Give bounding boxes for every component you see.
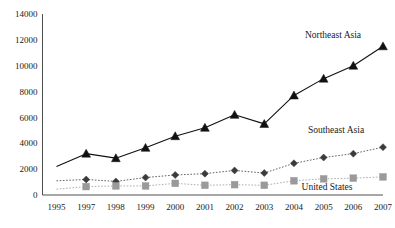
- y-tick-label: 0: [33, 190, 38, 200]
- data-point-marker-square: [83, 183, 90, 190]
- series-label-northeast-asia: Northeast Asia: [305, 30, 362, 40]
- data-point-marker-triangle: [230, 110, 239, 118]
- series-northeast-asia: [57, 42, 388, 167]
- data-point-marker-square: [261, 182, 268, 189]
- chart-container: 02000400060008000100001200014000 1995199…: [0, 0, 395, 228]
- x-tick-label: 2002: [226, 202, 244, 212]
- series-line: [57, 147, 384, 181]
- data-point-marker-triangle: [319, 74, 328, 82]
- y-tick-label: 2000: [20, 164, 39, 174]
- x-tick-label: 1997: [77, 202, 96, 212]
- data-point-marker-diamond: [142, 174, 149, 181]
- line-chart: 02000400060008000100001200014000 1995199…: [0, 0, 395, 228]
- data-point-marker-square: [172, 180, 179, 187]
- y-axis-tick-labels: 02000400060008000100001200014000: [15, 9, 38, 200]
- data-point-marker-square: [142, 183, 149, 190]
- data-point-marker-triangle: [290, 91, 299, 99]
- series-label-southeast-asia: Southeast Asia: [308, 125, 365, 135]
- data-point-marker-diamond: [320, 154, 327, 161]
- data-point-marker-triangle: [349, 61, 358, 69]
- series-southeast-asia: [57, 144, 387, 185]
- y-tick-label: 14000: [15, 9, 38, 19]
- x-tick-label: 1995: [48, 202, 67, 212]
- data-point-marker-square: [231, 181, 238, 188]
- axis-lines: [43, 14, 384, 195]
- x-tick-label: 2007: [374, 202, 393, 212]
- data-point-marker-diamond: [261, 170, 268, 177]
- x-tick-label: 2001: [196, 202, 214, 212]
- x-tick-label: 2003: [255, 202, 274, 212]
- x-tick-label: 2006: [344, 202, 363, 212]
- x-tick-label: 1998: [107, 202, 126, 212]
- data-point-marker-square: [291, 177, 298, 184]
- data-point-marker-triangle: [201, 123, 210, 131]
- series-layer: [57, 42, 388, 190]
- data-point-marker-triangle: [82, 149, 91, 157]
- series-label-united-states: United States: [302, 182, 353, 192]
- data-point-marker-diamond: [201, 170, 208, 177]
- y-tick-label: 8000: [20, 87, 39, 97]
- data-point-marker-diamond: [350, 150, 357, 157]
- y-tick-label: 10000: [15, 61, 38, 71]
- y-tick-label: 12000: [15, 35, 38, 45]
- data-point-marker-square: [202, 182, 209, 189]
- x-axis-tick-labels: 1995199719981999200020012002200320042005…: [48, 202, 393, 212]
- y-tick-label: 4000: [20, 138, 39, 148]
- series-annotation-labels: Northeast AsiaSoutheast AsiaUnited State…: [302, 30, 365, 192]
- x-tick-label: 2000: [166, 202, 185, 212]
- data-point-marker-square: [380, 174, 387, 181]
- data-point-marker-diamond: [231, 167, 238, 174]
- data-point-marker-square: [112, 183, 119, 190]
- data-point-marker-triangle: [141, 143, 150, 151]
- data-point-marker-diamond: [380, 144, 387, 151]
- y-tick-label: 6000: [20, 113, 39, 123]
- data-point-marker-diamond: [172, 171, 179, 178]
- series-line: [57, 46, 384, 166]
- x-tick-label: 1999: [137, 202, 156, 212]
- data-point-marker-triangle: [379, 42, 388, 50]
- x-tick-label: 2004: [285, 202, 304, 212]
- data-point-marker-diamond: [83, 176, 90, 183]
- x-tick-label: 2005: [315, 202, 334, 212]
- data-point-marker-diamond: [290, 160, 297, 167]
- data-point-marker-square: [350, 175, 357, 182]
